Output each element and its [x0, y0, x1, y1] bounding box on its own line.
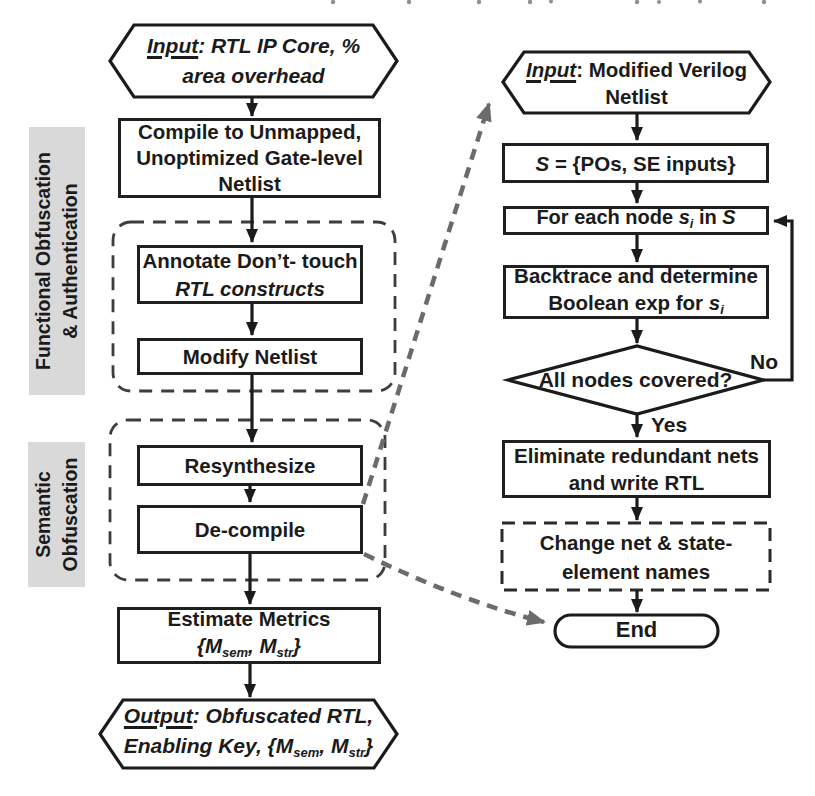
formula-subscript: i: [720, 302, 724, 317]
formula-run: For each node: [536, 206, 678, 228]
backtrace-step: Backtrace and determine Boolean exp for …: [503, 265, 769, 319]
input-node-right: Input: Modified Verilog Netlist: [503, 52, 770, 113]
modify-netlist-step: Modify Netlist: [137, 338, 363, 375]
node-text: area overhead: [182, 61, 324, 91]
step-text: De-compile: [195, 516, 306, 543]
section-label-line: Obfuscation: [57, 458, 84, 572]
output-node: Output: Obfuscated RTL, Enabling Key, {M…: [100, 700, 397, 768]
formula-run: }: [293, 634, 301, 657]
node-text-run: : Obfuscated RTL,: [193, 704, 373, 727]
compile-netlist-step: Compile to Unmapped, Unoptimized Gate-le…: [118, 118, 381, 198]
node-text-run: : Modified Verilog: [576, 58, 747, 81]
semantic-obfuscation-group-outline: [110, 420, 385, 580]
step-text: and write RTL: [569, 469, 705, 496]
step-text: Boolean exp for si: [548, 289, 724, 323]
foreach-node-step: For each node si in S: [503, 206, 769, 235]
node-text-run: : RTL IP Core, %: [198, 34, 360, 57]
annotate-dont-touch-step: Annotate Don’t- touch RTL constructs: [137, 245, 363, 304]
step-text: Netlist: [218, 171, 281, 197]
node-text: End: [616, 615, 658, 645]
flowchart-canvas: Functional Obfuscation & Authentication …: [0, 0, 815, 796]
edge-label-text: Yes: [651, 413, 687, 436]
formula-run: = {POs, SE inputs}: [549, 152, 735, 175]
yes-edge-label: Yes: [651, 413, 687, 437]
decompile-step: De-compile: [137, 505, 363, 554]
step-text: Compile to Unmapped,: [138, 119, 361, 145]
formula-run: {M: [197, 634, 222, 657]
step-text: Resynthesize: [184, 452, 315, 479]
decision-node-label: All nodes covered?: [508, 346, 763, 414]
resynthesize-step: Resynthesize: [137, 445, 363, 486]
step-text: Estimate Metrics: [168, 605, 331, 632]
node-text: Input: RTL IP Core, %: [147, 31, 360, 61]
step-text: Change net & state-: [540, 528, 733, 557]
formula-subscript: sem: [293, 745, 319, 760]
step-text: Unoptimized Gate-level: [136, 145, 363, 171]
input-node-left: Input: RTL IP Core, % area overhead: [110, 25, 397, 97]
node-text: Netlist: [605, 83, 668, 110]
node-text-run: Enabling Key, {M: [124, 734, 294, 757]
formula-run: S: [722, 206, 735, 228]
node-text: Input: Modified Verilog: [526, 56, 747, 83]
end-node-label: End: [555, 613, 718, 647]
step-text: For each node si in S: [536, 204, 735, 237]
callout-arrow-decompile-to-input: [363, 104, 489, 504]
cropped-caption-remnant: [331, 0, 766, 4]
node-text-run: , M: [319, 734, 348, 757]
section-label-line: & Authentication: [57, 183, 84, 338]
assign-s-step: S = {POs, SE inputs}: [502, 143, 769, 183]
eliminate-nets-step: Eliminate redundant nets and write RTL: [502, 440, 771, 498]
step-text: Annotate Don’t- touch: [142, 247, 357, 275]
formula-run: S: [536, 152, 550, 175]
edge-label-text: No: [750, 350, 778, 373]
formula-run: s: [679, 206, 690, 228]
node-text: Enabling Key, {Msem, Mstr}: [124, 731, 374, 768]
formula-run: Boolean exp for: [548, 291, 709, 314]
formula-subscript: str: [276, 645, 293, 660]
step-text: Backtrace and determine: [514, 262, 758, 289]
step-text: RTL constructs: [175, 275, 325, 303]
section-label-line: Functional Obfuscation: [30, 152, 57, 370]
output-keyword: Output: [124, 704, 193, 727]
no-edge-label: No: [750, 350, 778, 374]
step-text: Eliminate redundant nets: [514, 442, 759, 469]
formula-run: , M: [248, 634, 276, 657]
section-label-functional-obfuscation: Functional Obfuscation & Authentication: [29, 127, 85, 395]
section-label-semantic-obfuscation: Semantic Obfuscation: [28, 442, 85, 587]
formula-subscript: str: [348, 745, 365, 760]
section-label-line: Semantic: [30, 471, 57, 558]
formula-subscript: sem: [222, 645, 248, 660]
input-keyword: Input: [526, 58, 576, 81]
metrics-formula: {Msem, Mstr}: [197, 632, 301, 666]
estimate-metrics-step: Estimate Metrics {Msem, Mstr}: [117, 607, 381, 664]
formula-run: in: [693, 206, 722, 228]
input-keyword: Input: [147, 34, 198, 57]
node-text-run: }: [365, 734, 373, 757]
node-text: All nodes covered?: [539, 365, 733, 395]
formula-run: s: [709, 291, 720, 314]
step-text: S = {POs, SE inputs}: [536, 150, 736, 177]
step-text: element names: [562, 557, 710, 586]
rename-step: Change net & state- element names: [502, 523, 770, 590]
step-text: Modify Netlist: [183, 343, 317, 370]
node-text: Output: Obfuscated RTL,: [124, 701, 373, 731]
